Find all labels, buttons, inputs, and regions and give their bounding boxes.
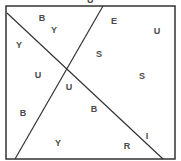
diagram-canvas (0, 0, 181, 161)
letter-label: U (35, 71, 42, 80)
letter-label: S (96, 50, 102, 59)
letter-label: U (154, 27, 161, 36)
letter-label: Y (55, 139, 61, 148)
letter-label: R (124, 142, 131, 151)
letter-label: U (66, 83, 73, 92)
diagonal-line-1 (7, 13, 163, 159)
letter-label: S (139, 72, 145, 81)
outer-square (6, 6, 175, 159)
letter-label: B (91, 105, 98, 114)
letter-label: Y (51, 26, 57, 35)
letter-label: I (146, 132, 149, 141)
letter-label: Y (16, 41, 22, 50)
letter-label: B (39, 14, 46, 23)
diagonal-line-2 (15, 6, 103, 159)
top-partial-label: U (87, 0, 94, 5)
letter-label: B (20, 109, 27, 118)
letter-label: E (111, 17, 117, 26)
